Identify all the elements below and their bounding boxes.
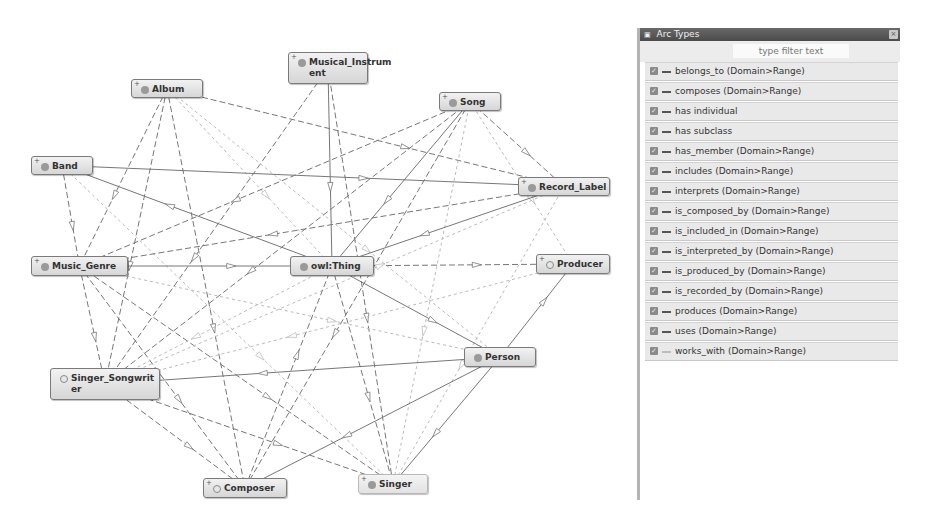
arc-type-row[interactable]: ✓uses (Domain>Range) [645, 322, 898, 341]
graph-edge[interactable] [62, 166, 393, 485]
graph-node-owl-thing[interactable]: owl:Thing [290, 256, 374, 276]
arrowhead-icon [422, 326, 427, 336]
close-icon[interactable]: × [889, 30, 898, 39]
graph-node-album[interactable]: +Album [131, 79, 203, 98]
graph-edge[interactable] [332, 187, 564, 267]
graph-edge[interactable] [245, 266, 332, 488]
arrowhead-icon [364, 313, 369, 323]
arc-type-row[interactable]: ✓interprets (Domain>Range) [645, 182, 898, 201]
arc-type-checkbox[interactable]: ✓ [650, 187, 658, 195]
arc-type-checkbox[interactable]: ✓ [650, 327, 658, 335]
arc-type-row[interactable]: ✓belongs_to (Domain>Range) [645, 62, 898, 81]
line-style-icon [662, 331, 671, 333]
arrowhead-icon [174, 394, 182, 403]
graph-node-singer[interactable]: +Singer [358, 474, 428, 494]
graph-node-person[interactable]: Person [464, 347, 536, 367]
arc-type-checkbox[interactable]: ✓ [650, 307, 658, 315]
line-style-icon [662, 131, 671, 133]
graph-edge[interactable] [500, 264, 573, 357]
line-style-icon [662, 151, 671, 153]
arc-type-row[interactable]: ✓is_recorded_by (Domain>Range) [645, 282, 898, 301]
graph-edge[interactable] [80, 187, 565, 267]
arc-type-checkbox[interactable]: ✓ [650, 247, 658, 255]
graph-edge[interactable] [332, 102, 470, 267]
expand-icon[interactable]: + [291, 54, 297, 61]
graph-edge[interactable] [332, 266, 500, 357]
graph-edge[interactable] [167, 89, 332, 267]
graph-node-song[interactable]: +Song [439, 92, 501, 111]
arc-type-checkbox[interactable]: ✓ [650, 167, 658, 175]
arc-type-checkbox[interactable]: ✓ [650, 67, 658, 75]
arc-type-checkbox[interactable]: ✓ [650, 127, 658, 135]
expand-icon[interactable]: + [539, 256, 545, 263]
arc-type-checkbox[interactable]: ✓ [650, 207, 658, 215]
arc-type-checkbox[interactable]: ✓ [650, 147, 658, 155]
arrowhead-icon [263, 392, 272, 399]
line-style-icon [662, 71, 671, 73]
arc-type-row[interactable]: ✓produces (Domain>Range) [645, 302, 898, 321]
graph-node-singer-songwriter[interactable]: Singer_Songwrit er [50, 368, 160, 400]
node-label: Composer [224, 483, 275, 493]
graph-edge[interactable] [105, 357, 500, 384]
node-label: Album [152, 84, 184, 94]
expand-icon[interactable]: + [206, 480, 212, 487]
expand-icon[interactable]: + [34, 158, 40, 165]
graph-edge[interactable] [105, 266, 332, 384]
graph-edge[interactable] [470, 102, 564, 187]
graph-edge[interactable] [393, 357, 500, 484]
expand-icon[interactable]: + [34, 258, 40, 265]
arrowhead-icon [362, 245, 371, 253]
graph-edge[interactable] [62, 166, 80, 267]
arc-type-checkbox[interactable]: ✓ [650, 107, 658, 115]
arrowhead-icon [375, 264, 385, 270]
graph-node-band[interactable]: +Band [31, 156, 93, 175]
graph-edge[interactable] [332, 266, 393, 484]
arc-type-row[interactable]: ✓composes (Domain>Range) [645, 82, 898, 101]
arc-type-row[interactable]: ✓has_member (Domain>Range) [645, 142, 898, 161]
arrowhead-icon [293, 350, 299, 360]
graph-node-producer[interactable]: +Producer [536, 254, 610, 274]
arc-type-row[interactable]: ✓has subclass [645, 122, 898, 141]
individual-circle-icon [213, 485, 221, 493]
expand-icon[interactable]: + [134, 81, 140, 88]
arc-type-checkbox[interactable]: ✓ [650, 287, 658, 295]
arc-type-checkbox[interactable]: ✓ [650, 347, 658, 355]
graph-node-music-genre[interactable]: +Music_Genre [31, 256, 128, 276]
graph-edge[interactable] [80, 102, 471, 267]
arc-type-row[interactable]: ✓is_included_in (Domain>Range) [645, 222, 898, 241]
arc-type-list: ✓belongs_to (Domain>Range)✓composes (Dom… [640, 62, 900, 500]
filter-input[interactable] [733, 44, 849, 58]
arc-type-label: composes (Domain>Range) [675, 83, 801, 100]
graph-edge[interactable] [62, 166, 564, 187]
arc-type-checkbox[interactable]: ✓ [650, 267, 658, 275]
arc-type-row[interactable]: ✓works_with (Domain>Range) [645, 342, 898, 361]
node-label: Band [52, 161, 78, 171]
arc-type-checkbox[interactable]: ✓ [650, 87, 658, 95]
line-style-icon [662, 211, 671, 213]
graph-edge[interactable] [393, 187, 564, 485]
arc-type-label: uses (Domain>Range) [675, 323, 777, 340]
arc-type-row[interactable]: ✓is_interpreted_by (Domain>Range) [645, 242, 898, 261]
filter-bar [640, 41, 900, 62]
expand-icon[interactable]: + [442, 94, 448, 101]
ontology-graph-canvas[interactable]: +Album+Musical_Instrum ent+Song+Band+Rec… [0, 0, 612, 510]
graph-edge[interactable] [105, 102, 470, 385]
arc-type-row[interactable]: ✓includes (Domain>Range) [645, 162, 898, 181]
expand-icon[interactable]: + [521, 179, 527, 186]
graph-node-composer[interactable]: +Composer [203, 478, 287, 498]
arc-types-titlebar[interactable]: ▣ Arc Types × [640, 28, 900, 41]
class-circle-icon [449, 99, 457, 107]
graph-edge[interactable] [328, 68, 393, 484]
arc-type-row[interactable]: ✓is_composed_by (Domain>Range) [645, 202, 898, 221]
graph-node-musical-instrument[interactable]: +Musical_Instrum ent [288, 52, 368, 84]
graph-node-record-label[interactable]: +Record_Label [518, 177, 610, 196]
arc-type-row[interactable]: ✓is_produced_by (Domain>Range) [645, 262, 898, 281]
graph-edge[interactable] [328, 68, 332, 266]
graph-edge[interactable] [62, 166, 332, 267]
graph-edge[interactable] [167, 89, 564, 187]
expand-icon[interactable]: + [361, 476, 367, 483]
graph-edge[interactable] [80, 266, 501, 357]
arc-type-checkbox[interactable]: ✓ [650, 227, 658, 235]
graph-edge[interactable] [393, 102, 470, 485]
arc-type-row[interactable]: ✓has individual [645, 102, 898, 121]
